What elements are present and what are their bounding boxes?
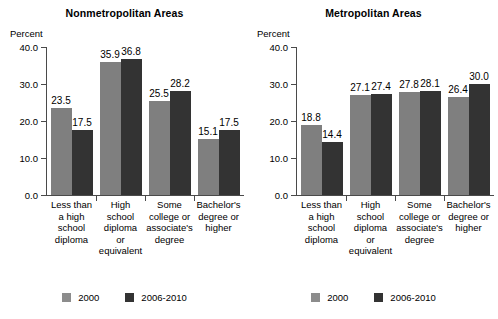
y-tick-mark — [41, 195, 47, 196]
y-axis-label: Percent — [257, 28, 290, 39]
y-tick-label: 30.0 — [270, 79, 289, 90]
bar-value-label: 35.9 — [100, 49, 119, 60]
label-line: Some — [146, 199, 193, 211]
x-axis-category-label: Some college or associate's degree — [395, 199, 444, 257]
label-line: Less than — [298, 199, 345, 211]
legend-item-2000[interactable]: 2000 — [62, 292, 99, 303]
bar-2006-2010[interactable]: 17.5 — [72, 130, 93, 195]
bar-value-label: 14.4 — [322, 129, 341, 140]
legend-swatch-icon — [125, 293, 134, 302]
bar-group: 26.4 30.0 — [444, 47, 493, 195]
bar-value-label: 30.0 — [469, 71, 488, 82]
label-line: degree — [146, 234, 193, 246]
y-tick-label: 40.0 — [20, 42, 39, 53]
label-line: diploma — [347, 222, 394, 234]
label-line: diploma — [48, 234, 95, 246]
legend: 2000 2006-2010 — [249, 292, 498, 303]
label-line: equivalent — [347, 245, 394, 257]
label-line: school — [298, 222, 345, 234]
bar-2000[interactable]: 18.8 — [301, 125, 322, 195]
x-axis-category-label: Less than a high school diploma — [297, 199, 346, 257]
x-axis-labels: Less than a high school diploma High sch… — [297, 199, 493, 257]
label-line: Less than — [48, 199, 95, 211]
y-tick-mark — [291, 195, 297, 196]
page-title: Metropolitan Areas — [249, 7, 498, 19]
bar-group: 27.1 27.4 — [346, 47, 395, 195]
bar-2006-2010[interactable]: 14.4 — [322, 142, 343, 195]
page-title: Nonmetropolitan Areas — [0, 7, 249, 19]
label-line: High — [347, 199, 394, 211]
label-line: higher — [445, 222, 492, 234]
bar-2000[interactable]: 27.1 — [350, 95, 371, 195]
bar-2000[interactable]: 25.5 — [149, 101, 170, 195]
x-axis-category-label: Bachelor's degree or higher — [194, 199, 243, 257]
y-axis-label: Percent — [10, 28, 43, 39]
bar-value-label: 28.1 — [420, 78, 439, 89]
bar-value-label: 36.8 — [121, 46, 140, 57]
bar-2000[interactable]: 26.4 — [448, 97, 469, 195]
x-axis-category-label: High school diploma or equivalent — [96, 199, 145, 257]
label-line: degree — [396, 234, 443, 246]
label-line: school — [347, 211, 394, 223]
y-tick-label: 10.0 — [20, 153, 39, 164]
bar-2000[interactable]: 35.9 — [100, 62, 121, 195]
legend-item-2006-2010[interactable]: 2006-2010 — [374, 292, 435, 303]
bar-groups: 23.5 17.5 35.9 36.8 — [47, 47, 243, 195]
label-line: associate's — [146, 222, 193, 234]
x-axis-category-label: Some college or associate's degree — [145, 199, 194, 257]
legend-item-2006-2010[interactable]: 2006-2010 — [125, 292, 186, 303]
bar-group: 25.5 28.2 — [145, 47, 194, 195]
figure: Nonmetropolitan Areas Percent 40.0 30.0 … — [0, 0, 498, 319]
bar-value-label: 27.8 — [399, 79, 418, 90]
bar-2006-2010[interactable]: 28.1 — [420, 91, 441, 195]
bar-group: 27.8 28.1 — [395, 47, 444, 195]
y-tick-label: 20.0 — [20, 116, 39, 127]
bar-group: 15.1 17.5 — [194, 47, 243, 195]
bar-2006-2010[interactable]: 36.8 — [121, 59, 142, 195]
label-line: a high — [298, 211, 345, 223]
bar-value-label: 26.4 — [448, 84, 467, 95]
bar-2000[interactable]: 15.1 — [198, 139, 219, 195]
bar-value-label: 15.1 — [198, 126, 217, 137]
label-line: Bachelor's — [195, 199, 242, 211]
plot-area: 40.0 30.0 20.0 10.0 0.0 23.5 — [47, 47, 243, 195]
legend-label: 2000 — [78, 292, 99, 303]
label-line: a high — [48, 211, 95, 223]
label-line: college or — [396, 211, 443, 223]
legend-label: 2006-2010 — [141, 292, 186, 303]
y-tick-label: 40.0 — [270, 42, 289, 53]
bar-2006-2010[interactable]: 28.2 — [170, 91, 191, 195]
label-line: diploma — [97, 222, 144, 234]
bar-value-label: 17.5 — [219, 117, 238, 128]
legend: 2000 2006-2010 — [0, 292, 249, 303]
label-line: school — [97, 211, 144, 223]
bar-value-label: 28.2 — [170, 78, 189, 89]
x-axis-category-label: High school diploma or equivalent — [346, 199, 395, 257]
label-line: degree or — [445, 211, 492, 223]
label-line: Some — [396, 199, 443, 211]
y-tick-label: 20.0 — [270, 116, 289, 127]
bar-group: 18.8 14.4 — [297, 47, 346, 195]
bar-2006-2010[interactable]: 27.4 — [371, 94, 392, 195]
bar-2006-2010[interactable]: 17.5 — [219, 130, 240, 195]
label-line: degree or — [195, 211, 242, 223]
y-tick-label: 30.0 — [20, 79, 39, 90]
bar-2000[interactable]: 27.8 — [399, 92, 420, 195]
label-line: High — [97, 199, 144, 211]
bar-value-label: 18.8 — [301, 112, 320, 123]
x-axis-labels: Less than a high school diploma High sch… — [47, 199, 243, 257]
chart-panel-metropolitan: Metropolitan Areas Percent 40.0 30.0 20.… — [249, 0, 498, 319]
legend-swatch-icon — [62, 293, 71, 302]
bar-value-label: 27.1 — [350, 82, 369, 93]
bar-value-label: 17.5 — [72, 117, 91, 128]
label-line: or — [97, 234, 144, 246]
label-line: higher — [195, 222, 242, 234]
legend-label: 2000 — [327, 292, 348, 303]
bar-value-label: 25.5 — [149, 88, 168, 99]
label-line: diploma — [298, 234, 345, 246]
plot-area: 40.0 30.0 20.0 10.0 0.0 18.8 14 — [297, 47, 493, 195]
bar-2006-2010[interactable]: 30.0 — [469, 84, 490, 195]
legend-item-2000[interactable]: 2000 — [311, 292, 348, 303]
bar-value-label: 27.4 — [371, 81, 390, 92]
bar-2000[interactable]: 23.5 — [51, 108, 72, 195]
